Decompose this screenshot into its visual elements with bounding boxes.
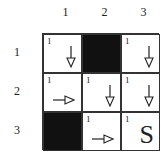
cell-3-3-start: 1 S bbox=[121, 112, 160, 151]
row-label-1: 1 bbox=[10, 45, 24, 60]
cell-value: 1 bbox=[86, 75, 91, 85]
arrow-right-icon bbox=[53, 95, 75, 105]
cell-2-2: 1 bbox=[82, 73, 121, 112]
cell-value: 1 bbox=[125, 36, 130, 46]
cell-value: 1 bbox=[47, 75, 52, 85]
column-label-1: 1 bbox=[46, 5, 85, 20]
cell-value: 1 bbox=[47, 36, 52, 46]
cell-3-1-blocked bbox=[43, 112, 82, 151]
column-label-3: 3 bbox=[124, 5, 163, 20]
cell-1-3: 1 bbox=[121, 34, 160, 73]
row-label-2: 2 bbox=[10, 84, 24, 99]
cell-2-1: 1 bbox=[43, 73, 82, 112]
cell-3-2: 1 bbox=[82, 112, 121, 151]
cell-value: 1 bbox=[125, 114, 130, 124]
arrow-right-icon bbox=[92, 134, 114, 144]
arrow-down-icon bbox=[144, 85, 154, 107]
cell-value: 1 bbox=[125, 75, 130, 85]
column-label-2: 2 bbox=[85, 5, 124, 20]
cell-value: 1 bbox=[86, 114, 91, 124]
arrow-down-icon bbox=[66, 46, 76, 68]
grid-world: 1 1 1 1 1 1 1 S bbox=[42, 33, 159, 150]
cell-2-3: 1 bbox=[121, 73, 160, 112]
cell-1-1: 1 bbox=[43, 34, 82, 73]
arrow-down-icon bbox=[144, 46, 154, 68]
arrow-down-icon bbox=[105, 85, 115, 107]
start-marker: S bbox=[140, 120, 154, 150]
cell-1-2-blocked bbox=[82, 34, 121, 73]
row-label-3: 3 bbox=[10, 123, 24, 138]
